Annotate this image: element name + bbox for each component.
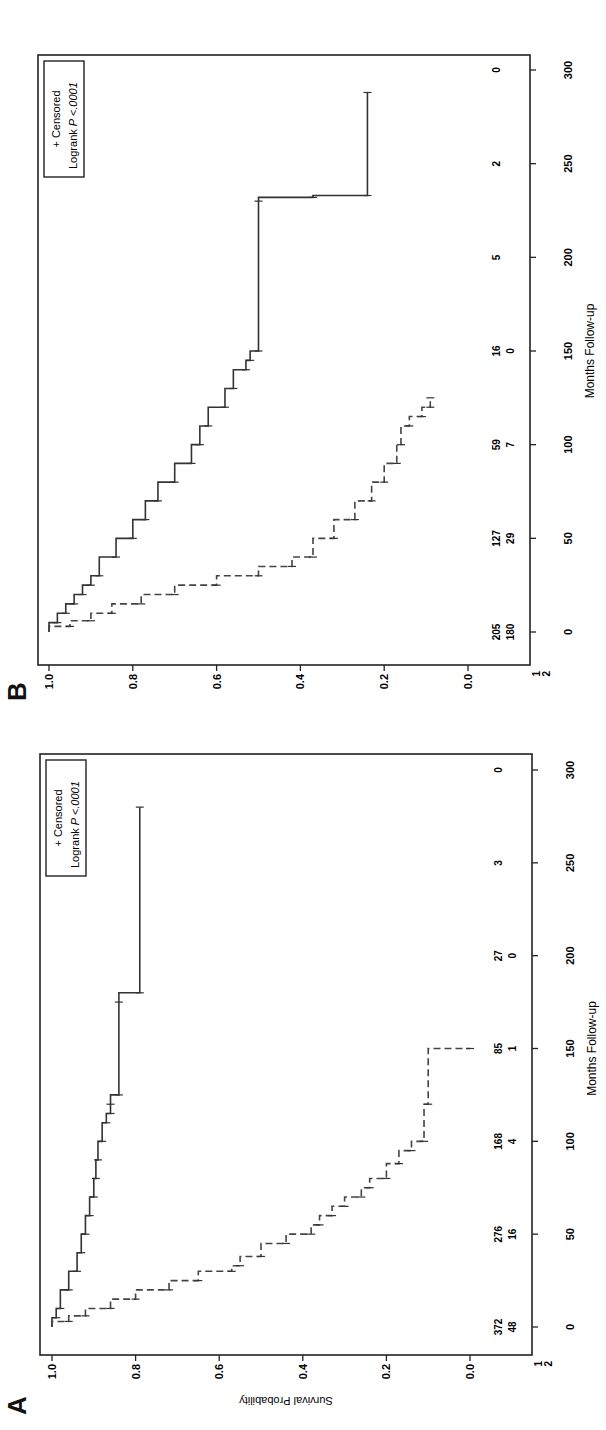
x-tick-label: 50 bbox=[562, 532, 574, 544]
x-tick-label: 150 bbox=[564, 1039, 576, 1057]
y-tick-label: 1.0 bbox=[46, 1364, 58, 1379]
y-tick-label: 0.8 bbox=[127, 674, 139, 689]
risk-table-count: 29 bbox=[505, 532, 516, 544]
legend-logrank: Logrank P <.0001 bbox=[67, 82, 79, 169]
risk-table-count: 180 bbox=[505, 623, 516, 640]
km-curve-group-2 bbox=[49, 398, 430, 632]
panel-letter-b: B bbox=[2, 682, 33, 701]
risk-table-count: 5 bbox=[491, 254, 502, 260]
risk-table-count: 372 bbox=[493, 1318, 504, 1335]
panel-a-rotator: 0.00.20.40.60.81.0Survival Probability05… bbox=[0, 700, 606, 1430]
legend-censored: + Censored bbox=[50, 90, 62, 147]
x-tick-label: 100 bbox=[564, 1132, 576, 1150]
x-tick-label: 200 bbox=[564, 946, 576, 964]
risk-table-count: 16 bbox=[507, 1228, 518, 1240]
x-axis-label: Months Follow-up bbox=[585, 1001, 599, 1096]
risk-table-count: 3 bbox=[493, 860, 504, 866]
y-axis-label: Survival Probability bbox=[239, 1395, 333, 1407]
x-tick-label: 50 bbox=[564, 1228, 576, 1240]
risk-table-count: 127 bbox=[491, 530, 502, 547]
y-tick-label: 0.4 bbox=[294, 673, 306, 689]
panel-a: 0.00.20.40.60.81.0Survival Probability05… bbox=[0, 700, 606, 1430]
y-tick-label: 0.0 bbox=[464, 1364, 476, 1379]
risk-table-count: 85 bbox=[493, 1043, 504, 1055]
x-tick-label: 250 bbox=[564, 854, 576, 872]
risk-table-count: 59 bbox=[491, 439, 502, 451]
risk-table-count: 168 bbox=[493, 1133, 504, 1150]
risk-table-count: 205 bbox=[491, 623, 502, 640]
risk-table-count: 7 bbox=[505, 441, 516, 447]
risk-table-count: 48 bbox=[507, 1321, 518, 1333]
risk-table-count: 0 bbox=[505, 348, 516, 354]
panel-b: 0.00.20.40.60.81.0Survival Probability05… bbox=[0, 0, 606, 700]
risk-table-count: 16 bbox=[491, 345, 502, 357]
risk-group-label: 2 bbox=[541, 671, 552, 677]
legend-p-value: P <.0001 bbox=[69, 781, 81, 825]
y-tick-label: 0.4 bbox=[297, 1363, 309, 1379]
y-tick-label: 0.2 bbox=[378, 674, 390, 689]
legend-p-value: P <.0001 bbox=[67, 82, 79, 126]
legend-censored: + Censored bbox=[52, 789, 64, 846]
risk-table-count: 276 bbox=[493, 1225, 504, 1242]
x-tick-label: 0 bbox=[564, 1324, 576, 1330]
panel-letter-a: A bbox=[2, 1396, 33, 1415]
y-tick-label: 1.0 bbox=[43, 674, 55, 689]
risk-table-count: 0 bbox=[491, 67, 502, 73]
x-tick-label: 100 bbox=[562, 435, 574, 453]
km-chart-a: 0.00.20.40.60.81.0Survival Probability05… bbox=[0, 700, 606, 1430]
x-tick-label: 150 bbox=[562, 342, 574, 360]
plot-frame bbox=[40, 754, 532, 1355]
risk-table-count: 0 bbox=[493, 767, 504, 773]
km-curve-group-1 bbox=[49, 92, 367, 632]
y-tick-label: 0.2 bbox=[380, 1364, 392, 1379]
x-tick-label: 300 bbox=[564, 761, 576, 779]
x-tick-label: 0 bbox=[562, 629, 574, 635]
y-tick-label: 0.0 bbox=[462, 674, 474, 689]
legend-logrank: Logrank P <.0001 bbox=[69, 781, 81, 868]
y-tick-label: 0.6 bbox=[213, 1364, 225, 1379]
risk-group-label: 2 bbox=[543, 1361, 554, 1367]
y-tick-label: 0.8 bbox=[130, 1364, 142, 1379]
risk-table-count: 0 bbox=[507, 952, 518, 958]
x-tick-label: 250 bbox=[562, 154, 574, 172]
km-curve-group-1 bbox=[52, 807, 140, 1327]
risk-table-count: 2 bbox=[491, 160, 502, 166]
risk-table-count: 27 bbox=[493, 950, 504, 962]
km-curve-group-2 bbox=[52, 1049, 470, 1328]
plot-frame bbox=[38, 55, 530, 665]
x-axis-label: Months Follow-up bbox=[583, 303, 597, 398]
risk-table-count: 4 bbox=[507, 1138, 518, 1144]
risk-table-count: 1 bbox=[507, 1045, 518, 1051]
panel-b-rotator: 0.00.20.40.60.81.0Survival Probability05… bbox=[0, 0, 606, 700]
x-tick-label: 200 bbox=[562, 248, 574, 266]
y-tick-label: 0.6 bbox=[211, 674, 223, 689]
x-tick-label: 300 bbox=[562, 61, 574, 79]
km-chart-b: 0.00.20.40.60.81.0Survival Probability05… bbox=[0, 0, 606, 700]
